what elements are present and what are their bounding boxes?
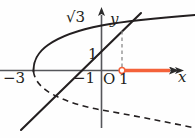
- label-y-axis: y: [110, 12, 118, 27]
- graph-figure: √3 y 1 −3 −1 O 1 x: [0, 0, 195, 138]
- label-x-axis: x: [178, 70, 186, 85]
- label-sqrt3: √3: [66, 10, 85, 25]
- label-one-x: 1: [119, 72, 129, 87]
- graph-canvas: [0, 0, 195, 138]
- label-minus-one: −1: [73, 71, 95, 86]
- label-origin: O: [103, 72, 115, 87]
- label-one-y: 1: [88, 47, 98, 62]
- label-minus-three: −3: [3, 71, 25, 86]
